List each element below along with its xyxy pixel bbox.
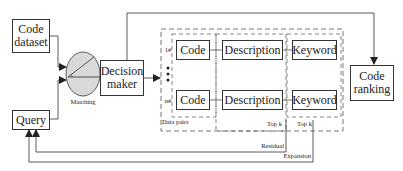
description-cell-label: Description — [225, 93, 281, 108]
keyword-cell-label: Keyword — [292, 43, 337, 58]
code-cell-n: Code — [176, 90, 210, 110]
query-to-matching-arrow — [50, 80, 66, 119]
row-index-1: 1# — [163, 46, 173, 53]
keyword-cell-label: Keyword — [292, 93, 337, 108]
keyword-cell-n: Keyword — [292, 90, 337, 110]
description-cell-n: Description — [222, 90, 283, 110]
code-cell-1: Code — [176, 40, 210, 60]
decision-maker-node: Decision maker — [100, 60, 144, 96]
description-cell-1: Description — [222, 40, 283, 60]
description-cell-label: Description — [225, 43, 281, 58]
decision-maker-label-2: maker — [107, 78, 137, 91]
diagram-connectors — [0, 0, 403, 171]
code-cell-label: Code — [180, 43, 205, 58]
query-label: Query — [16, 113, 46, 128]
expansion-label: Expansion — [270, 152, 311, 159]
matching-label: Matching — [66, 98, 100, 105]
topk-keyword-label: Top k — [290, 120, 312, 127]
code-ranking-node: Code ranking — [350, 65, 394, 101]
data-pairs-label: Data pairs — [162, 118, 192, 125]
topk-description-label: Top k — [256, 120, 282, 127]
code-dataset-label-2: dataset — [14, 36, 47, 49]
row-index-n: n# — [163, 97, 173, 104]
code-cell-label: Code — [180, 93, 205, 108]
query-node: Query — [12, 110, 50, 130]
code-dataset-node: Code dataset — [12, 19, 50, 53]
keyword-cell-1: Keyword — [292, 40, 337, 60]
dataset-to-matching-arrow — [50, 36, 66, 67]
code-ranking-label-2: ranking — [354, 83, 391, 96]
residual-label: Residual — [250, 142, 284, 149]
